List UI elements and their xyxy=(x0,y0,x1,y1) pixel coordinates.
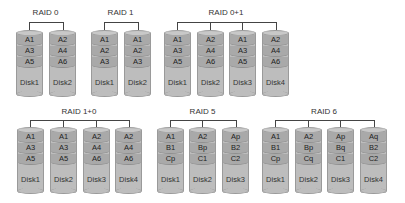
disk-label: Disk1 xyxy=(91,78,118,87)
data-block: C2 xyxy=(223,154,248,165)
data-block: A1 xyxy=(230,35,255,46)
disk-label: Disk2 xyxy=(49,78,76,87)
disk-label: Disk2 xyxy=(295,175,322,184)
data-block: A6 xyxy=(50,57,75,68)
data-block: A3 xyxy=(165,46,190,57)
data-block: A6 xyxy=(263,57,288,68)
raid-title: RAID 0 xyxy=(33,8,59,17)
disk-label: Disk2 xyxy=(124,78,151,87)
data-block: A1 xyxy=(18,132,43,143)
disk-icon: A2A4A6Disk4 xyxy=(262,30,289,97)
data-block: A1 xyxy=(263,132,288,143)
disk-label: Disk1 xyxy=(16,78,43,87)
data-block: A1 xyxy=(165,35,190,46)
disk-label: Disk3 xyxy=(83,175,110,184)
data-block: A6 xyxy=(116,154,141,165)
data-block: A1 xyxy=(125,35,150,46)
data-block: A2 xyxy=(84,132,109,143)
disk-icon: A2A4A6Disk2 xyxy=(197,30,224,97)
disk-icon: A1A3A5Disk1 xyxy=(17,127,44,194)
data-block: A4 xyxy=(50,46,75,57)
data-block: C1 xyxy=(328,154,353,165)
data-block: A6 xyxy=(198,57,223,68)
data-block: B1 xyxy=(263,143,288,154)
disk-icon: A1A3A5Disk1 xyxy=(16,30,43,97)
data-block: Bp xyxy=(190,143,215,154)
disk-icon: A1A2A3Disk2 xyxy=(124,30,151,97)
disk-label: Disk1 xyxy=(262,175,289,184)
disk-icon: A1A2A3Disk1 xyxy=(91,30,118,97)
data-block: A4 xyxy=(263,46,288,57)
disk-label: Disk3 xyxy=(327,175,354,184)
data-block: A4 xyxy=(116,143,141,154)
data-block: A2 xyxy=(198,35,223,46)
data-block: A2 xyxy=(50,35,75,46)
raid-title: RAID 6 xyxy=(311,107,337,116)
data-block: A4 xyxy=(84,143,109,154)
data-block: A2 xyxy=(263,35,288,46)
disk-label: Disk1 xyxy=(157,175,184,184)
disk-icon: A2A4A6Disk3 xyxy=(83,127,110,194)
disk-label: Disk4 xyxy=(115,175,142,184)
data-block: Aq xyxy=(361,132,386,143)
data-block: B2 xyxy=(223,143,248,154)
raid-title: RAID 1 xyxy=(108,8,134,17)
data-block: C2 xyxy=(361,154,386,165)
disk-label: Disk2 xyxy=(197,78,224,87)
data-block: C1 xyxy=(190,154,215,165)
data-block: A3 xyxy=(51,143,76,154)
data-block: A2 xyxy=(116,132,141,143)
disk-icon: A1A3A5Disk2 xyxy=(50,127,77,194)
disk-label: Disk1 xyxy=(164,78,191,87)
disk-label: Disk2 xyxy=(189,175,216,184)
data-block: A2 xyxy=(125,46,150,57)
data-block: Cp xyxy=(263,154,288,165)
data-block: A6 xyxy=(84,154,109,165)
data-block: A2 xyxy=(92,46,117,57)
data-block: Bq xyxy=(328,143,353,154)
disk-label: Disk2 xyxy=(50,175,77,184)
data-block: A3 xyxy=(17,46,42,57)
data-block: A3 xyxy=(230,46,255,57)
disk-label: Disk3 xyxy=(222,175,249,184)
disk-icon: A2A4A6Disk2 xyxy=(49,30,76,97)
data-block: A3 xyxy=(125,57,150,68)
data-block: A1 xyxy=(92,35,117,46)
connector-line xyxy=(242,22,243,30)
data-block: A3 xyxy=(92,57,117,68)
data-block: Bp xyxy=(296,143,321,154)
data-block: B1 xyxy=(158,143,183,154)
disk-icon: ApBqC1Disk3 xyxy=(327,127,354,194)
data-block: Ap xyxy=(328,132,353,143)
disk-label: Disk4 xyxy=(360,175,387,184)
raid-title: RAID 5 xyxy=(190,107,216,116)
raid-title: RAID 1+0 xyxy=(62,107,97,116)
disk-icon: AqB2C2Disk4 xyxy=(360,127,387,194)
data-block: A2 xyxy=(190,132,215,143)
data-block: A5 xyxy=(18,154,43,165)
data-block: B2 xyxy=(361,143,386,154)
data-block: A4 xyxy=(198,46,223,57)
data-block: Cq xyxy=(296,154,321,165)
data-block: Cp xyxy=(158,154,183,165)
data-block: A2 xyxy=(296,132,321,143)
disk-icon: A1B1CpDisk1 xyxy=(262,127,289,194)
data-block: A1 xyxy=(158,132,183,143)
disk-icon: A2BpCqDisk2 xyxy=(295,127,322,194)
disk-label: Disk3 xyxy=(229,78,256,87)
disk-icon: A1A3A5Disk1 xyxy=(164,30,191,97)
disk-icon: A2BpC1Disk2 xyxy=(189,127,216,194)
raid-title: RAID 0+1 xyxy=(209,8,244,17)
data-block: A5 xyxy=(51,154,76,165)
disk-icon: A2A4A6Disk4 xyxy=(115,127,142,194)
data-block: A5 xyxy=(230,57,255,68)
data-block: Ap xyxy=(223,132,248,143)
data-block: A1 xyxy=(51,132,76,143)
data-block: A5 xyxy=(165,57,190,68)
disk-label: Disk1 xyxy=(17,175,44,184)
disk-icon: A1A3A5Disk3 xyxy=(229,30,256,97)
connector-line xyxy=(210,22,211,30)
data-block: A1 xyxy=(17,35,42,46)
data-block: A3 xyxy=(18,143,43,154)
disk-icon: A1B1CpDisk1 xyxy=(157,127,184,194)
